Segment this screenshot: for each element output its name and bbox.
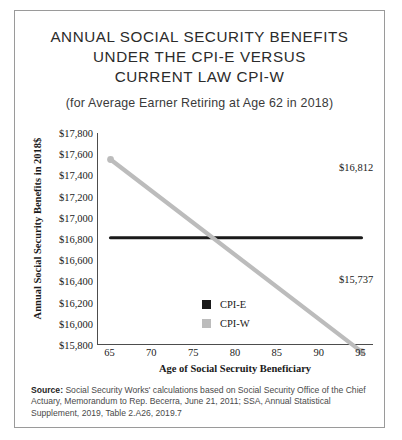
title-line-1: ANNUAL SOCIAL SECURITY BENEFITS — [15, 27, 384, 47]
legend-swatch-cpi-e — [202, 300, 211, 309]
legend-swatch-cpi-w — [202, 319, 211, 328]
y-axis-tick: $16,400 — [31, 276, 93, 287]
x-axis-title: Age of Social Secruity Beneficiary — [97, 363, 373, 374]
legend-label-cpi-w: CPI-W — [220, 318, 250, 329]
source-body: Social Security Works' calculations base… — [31, 385, 366, 418]
plot-area: CPI-E CPI-W — [97, 133, 373, 345]
x-axis-tick: 95 — [355, 347, 366, 358]
data-label-cpi-w: $15,737 — [339, 274, 373, 285]
y-axis-tick: $15,800 — [31, 340, 93, 351]
page-title: ANNUAL SOCIAL SECURITY BENEFITS UNDER TH… — [15, 27, 384, 87]
source-note: Source: Social Security Works' calculati… — [31, 385, 371, 419]
y-axis-tick: $17,800 — [31, 128, 93, 139]
legend-item-cpi-e: CPI-E — [202, 296, 250, 312]
y-axis-tick: $16,800 — [31, 234, 93, 245]
y-axis-tick: $16,200 — [31, 297, 93, 308]
title-line-2: UNDER THE CPI-E VERSUS — [15, 47, 384, 67]
chart: Annual Social Security Benefits in 2018$… — [15, 119, 386, 379]
x-axis-tick: 85 — [272, 347, 283, 358]
x-axis-tick-labels: 65707580859095 — [97, 347, 373, 363]
chart-card: ANNUAL SOCIAL SECURITY BENEFITS UNDER TH… — [14, 10, 385, 428]
x-axis-tick: 75 — [188, 347, 199, 358]
legend-item-cpi-w: CPI-W — [202, 315, 250, 331]
x-axis-tick: 90 — [313, 347, 324, 358]
y-axis-tick: $17,400 — [31, 170, 93, 181]
legend-label-cpi-e: CPI-E — [220, 299, 246, 310]
y-axis-tick-labels: $15,800$16,000$16,200$16,400$16,600$16,8… — [31, 133, 93, 345]
x-axis-tick: 70 — [146, 347, 157, 358]
series-marker-cpi-w — [107, 156, 114, 163]
x-axis-tick: 80 — [230, 347, 241, 358]
y-axis-tick: $16,000 — [31, 318, 93, 329]
data-label-cpi-e: $16,812 — [339, 162, 373, 173]
x-axis-tick: 65 — [104, 347, 115, 358]
legend: CPI-E CPI-W — [202, 296, 250, 334]
y-axis-tick: $17,000 — [31, 212, 93, 223]
y-axis-tick: $17,600 — [31, 149, 93, 160]
source-label: Source: — [31, 385, 63, 395]
y-axis-tick: $17,200 — [31, 191, 93, 202]
title-line-3: CURRENT LAW CPI-W — [15, 67, 384, 87]
chart-subtitle: (for Average Earner Retiring at Age 62 i… — [15, 96, 384, 110]
y-axis-tick: $16,600 — [31, 255, 93, 266]
